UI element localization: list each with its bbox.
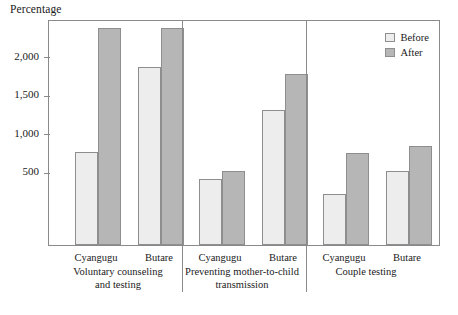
group-label-line1: Preventing mother-to-child [185,266,299,279]
group-label-line2: and testing [73,279,162,292]
bar-before [138,67,161,245]
bar-before [386,171,409,245]
bar-after [161,28,184,245]
group-label: Couple testing [336,266,397,279]
y-tick-label: 1,000 [14,127,39,139]
bar-before [199,179,222,245]
plot-area: 5001,0001,5002,000 BeforeAfter [48,20,440,246]
bar-after [222,171,245,245]
y-tick-mark [44,173,50,174]
bar-before [75,152,98,245]
group-label-line1: Couple testing [336,266,397,279]
chart-legend: BeforeAfter [385,31,429,61]
y-tick-label: 500 [23,165,40,177]
y-tick-mark [44,57,50,58]
before-swatch-icon [385,33,395,42]
y-tick-label: 1,500 [14,88,39,100]
after-swatch-icon [385,48,395,57]
y-axis-title: Percentage [10,3,61,15]
category-label: Cyangugu [198,252,241,263]
category-label: Butare [269,252,297,263]
category-label: Cyangugu [74,252,117,263]
bar-before [262,110,285,245]
bar-after [409,146,432,245]
y-tick-mark [44,96,50,97]
group-label: Preventing mother-to-childtransmission [185,266,299,291]
legend-item: After [385,46,429,59]
legend-label: After [400,46,422,59]
bar-chart-figure: Percentage 5001,0001,5002,000 BeforeAfte… [0,0,458,315]
category-label: Cyangugu [322,252,365,263]
bar-after [98,28,121,245]
bar-before [323,194,346,246]
group-separator [182,20,183,292]
group-label-line2: transmission [185,279,299,292]
legend-label: Before [400,31,429,44]
y-tick-mark [44,134,50,135]
legend-item: Before [385,31,429,44]
bar-after [285,74,308,245]
category-label: Butare [145,252,173,263]
group-label: Voluntary counselingand testing [73,266,162,291]
y-tick-label: 2,000 [14,50,39,62]
bar-after [346,153,369,245]
category-label: Butare [393,252,421,263]
group-label-line1: Voluntary counseling [73,266,162,279]
group-separator [306,20,307,292]
